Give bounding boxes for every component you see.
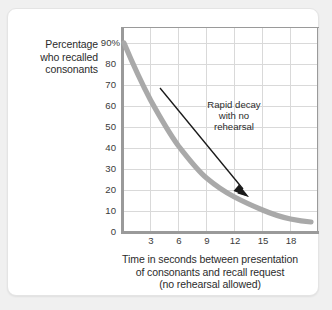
y-tick-label-70: 70: [92, 80, 116, 90]
x-axis-title-line-2: of consonants and recall request: [96, 266, 324, 279]
x-axis-title-line-3: (no rehearsal allowed): [96, 278, 324, 291]
figure-root: Percentage who recalled consonants 90% 8…: [0, 0, 332, 310]
y-tick-label-20: 20: [92, 185, 116, 195]
y-tick-label-60: 60: [92, 101, 116, 111]
x-tick-label-18: 18: [280, 236, 302, 246]
x-tick-label-12: 12: [224, 236, 246, 246]
annotation-line-3: rehearsal: [193, 121, 275, 132]
x-axis-title-line-1: Time in seconds between presentation: [96, 253, 324, 266]
x-axis-title: Time in seconds between presentation of …: [96, 253, 324, 291]
x-tick-label-3: 3: [140, 236, 162, 246]
x-tick-label-9: 9: [196, 236, 218, 246]
y-axis-title: Percentage who recalled consonants: [12, 38, 98, 76]
y-tick-label-10: 10: [92, 206, 116, 216]
x-tick-label-6: 6: [168, 236, 190, 246]
y-tick-label-30: 30: [92, 164, 116, 174]
y-tick-label-90: 90%: [92, 38, 120, 48]
y-tick-label-40: 40: [92, 143, 116, 153]
y-axis-title-line-1: Percentage: [12, 38, 98, 51]
annotation-line-1: Rapid decay: [193, 99, 275, 110]
chart-annotation: Rapid decay with no rehearsal: [193, 99, 275, 133]
x-tick-label-15: 15: [252, 236, 274, 246]
y-axis-title-line-2: who recalled: [12, 51, 98, 64]
y-tick-label-80: 80: [92, 59, 116, 69]
annotation-line-2: with no: [193, 110, 275, 121]
y-axis-title-line-3: consonants: [12, 63, 98, 76]
y-tick-label-50: 50: [92, 122, 116, 132]
y-tick-label-0: 0: [92, 227, 116, 237]
